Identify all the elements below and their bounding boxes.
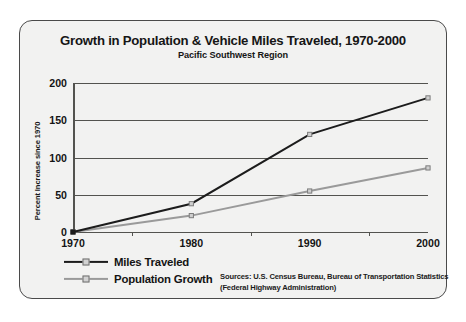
- y-tick-label: 150: [49, 114, 67, 126]
- legend-marker-icon: [83, 275, 90, 282]
- y-tick-label: 50: [55, 189, 67, 201]
- title-block: Growth in Population & Vehicle Miles Tra…: [20, 33, 446, 60]
- series-line: [73, 98, 428, 232]
- x-tick-label: 2000: [416, 237, 440, 249]
- legend-item-miles-traveled[interactable]: Miles Traveled: [64, 253, 212, 270]
- x-axis-tick: [132, 232, 133, 236]
- data-point-marker: [189, 214, 193, 218]
- chart-subtitle: Pacific Southwest Region: [20, 50, 446, 60]
- data-point-marker: [308, 132, 312, 136]
- x-axis-tick: [369, 232, 370, 236]
- legend-swatch-miles-traveled: [64, 256, 108, 268]
- x-tick-label: 1990: [298, 237, 322, 249]
- legend-marker-icon: [83, 258, 90, 265]
- x-axis-tick: [251, 232, 252, 236]
- y-tick-label: 200: [49, 77, 67, 89]
- series-line: [73, 168, 428, 232]
- x-tick-label: 1980: [180, 237, 204, 249]
- data-point-marker: [71, 230, 75, 234]
- chart-panel: Growth in Population & Vehicle Miles Tra…: [19, 20, 447, 299]
- legend-swatch-population-growth: [64, 273, 108, 285]
- y-axis-title: Percent Increase since 1970: [33, 122, 42, 221]
- legend-item-population-growth[interactable]: Population Growth: [64, 270, 212, 287]
- legend-label-miles-traveled: Miles Traveled: [114, 256, 189, 268]
- legend: Miles Traveled Population Growth: [64, 253, 212, 287]
- legend-label-population-growth: Population Growth: [114, 273, 212, 285]
- data-point-marker: [426, 166, 430, 170]
- chart-title: Growth in Population & Vehicle Miles Tra…: [20, 33, 446, 48]
- sources-line-2: (Federal Highway Administration): [220, 283, 438, 294]
- y-tick-label: 100: [49, 152, 67, 164]
- data-point-marker: [426, 96, 430, 100]
- sources-line-1: Sources: U.S. Census Bureau, Bureau of T…: [220, 272, 438, 283]
- sources-note: Sources: U.S. Census Bureau, Bureau of T…: [220, 272, 438, 293]
- data-point-marker: [308, 189, 312, 193]
- data-point-marker: [189, 202, 193, 206]
- series-lines: [73, 83, 428, 232]
- plot-area: 050100150200 1970198019902000: [73, 83, 428, 232]
- x-tick-label: 1970: [61, 237, 85, 249]
